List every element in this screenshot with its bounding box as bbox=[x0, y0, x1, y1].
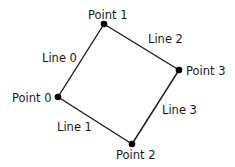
line-1-label: Line 1 bbox=[57, 120, 92, 134]
point-3-label: Point 3 bbox=[186, 64, 226, 78]
line-2-label: Line 2 bbox=[148, 32, 183, 46]
point-2-label: Point 2 bbox=[116, 148, 156, 162]
point-2-marker bbox=[129, 141, 136, 148]
point-1-label: Point 1 bbox=[88, 8, 128, 22]
quadrilateral-diagram: Point 1 Point 0 Point 3 Point 2 Line 0 L… bbox=[0, 0, 235, 167]
line-3-label: Line 3 bbox=[162, 103, 197, 117]
line-0-label: Line 0 bbox=[42, 51, 77, 65]
point-0-marker bbox=[55, 94, 62, 101]
line-2 bbox=[104, 24, 179, 70]
point-3-marker bbox=[176, 67, 183, 74]
point-0-label: Point 0 bbox=[12, 91, 52, 105]
